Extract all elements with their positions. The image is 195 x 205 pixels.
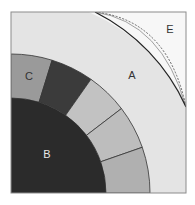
diagram-canvas: A B C E <box>0 0 195 205</box>
label-b: B <box>43 148 50 160</box>
label-a: A <box>128 69 136 81</box>
label-c: C <box>25 70 33 82</box>
label-e: E <box>166 23 173 35</box>
